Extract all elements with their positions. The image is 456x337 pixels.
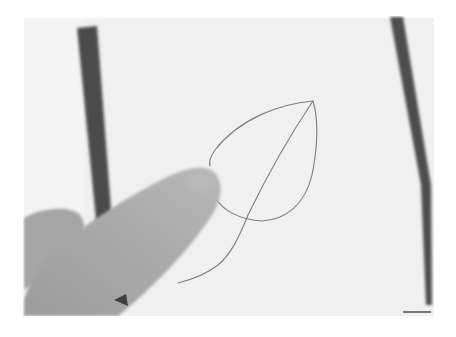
photograph	[0, 0, 456, 337]
